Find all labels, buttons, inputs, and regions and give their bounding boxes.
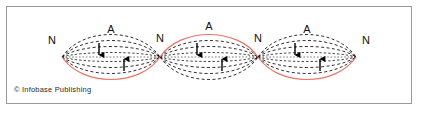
node-label-1: N — [48, 34, 56, 46]
antinode-label-2: A — [205, 20, 213, 32]
wave-red-curve-2 — [160, 35, 258, 58]
figure-root: N N N N A A A © Infobase Publishing — [0, 0, 424, 117]
node-label-4: N — [362, 34, 370, 46]
standing-wave-diagram: N N N N A A A — [0, 0, 424, 117]
copyright-credit: © Infobase Publishing — [14, 85, 91, 94]
wave-red-curve-3 — [258, 57, 356, 80]
antinode-label-3: A — [303, 23, 311, 35]
antinode-label-1: A — [107, 23, 115, 35]
antinode-labels: A A A — [107, 20, 311, 35]
wave-red-curve-1 — [62, 57, 160, 80]
node-label-2: N — [156, 32, 164, 44]
node-label-3: N — [254, 32, 262, 44]
